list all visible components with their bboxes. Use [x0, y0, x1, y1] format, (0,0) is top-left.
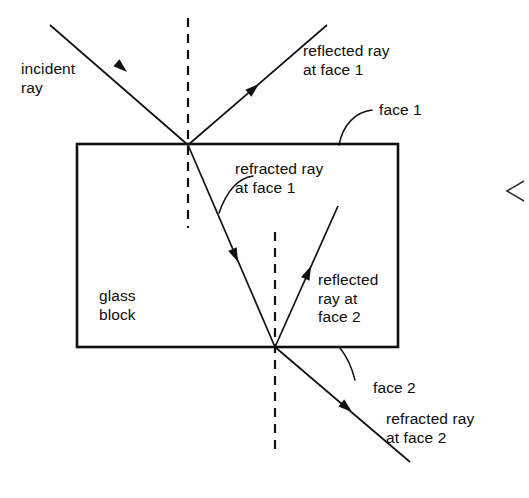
- page-edge-chevron-icon: [507, 181, 524, 201]
- refracted-ray-at-face-1-arrowhead: [228, 247, 238, 262]
- refracted-ray-at-face-2-arrowhead: [338, 399, 352, 412]
- label-face-1: face 1: [379, 101, 422, 120]
- normal-lines-group: [188, 18, 275, 455]
- label-refracted-ray-at-face-2: refracted ray at face 2: [386, 410, 474, 447]
- ray-diagram-figure: incident ray reflected ray at face 1 fac…: [0, 0, 529, 498]
- label-face-2: face 2: [373, 379, 416, 398]
- incident-ray-arrowhead: [113, 59, 127, 72]
- light-rays-group: [50, 25, 410, 462]
- reflected-ray-at-face-2-arrowhead: [301, 266, 311, 281]
- leader-face-2: [340, 348, 355, 380]
- label-refracted-ray-at-face-1: refracted ray at face 1: [235, 160, 323, 197]
- label-glass-block: glass block: [99, 287, 136, 324]
- label-incident-ray: incident ray: [21, 60, 75, 97]
- leader-lines-group: [219, 110, 372, 380]
- label-reflected-ray-at-face-1: reflected ray at face 1: [303, 42, 390, 79]
- leader-face-1: [339, 110, 372, 145]
- label-reflected-ray-at-face-2: reflected ray at face 2: [318, 271, 378, 327]
